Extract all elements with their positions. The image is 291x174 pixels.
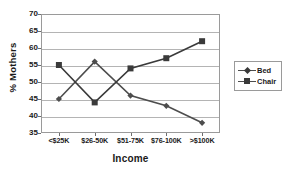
x-tick-label: >$100K: [190, 136, 215, 145]
y-tick-mark: [38, 82, 41, 83]
y-tick-label: 35: [18, 129, 38, 137]
y-tick-label: 70: [18, 10, 38, 18]
x-tick-mark: [202, 133, 203, 136]
y-tick-label: 45: [18, 95, 38, 103]
y-tick-mark: [38, 65, 41, 66]
legend-label-bed: Bed: [257, 66, 271, 75]
x-tick-label: $51-75K: [117, 136, 144, 145]
legend-label-chair: Chair: [257, 77, 276, 86]
x-tick-label: $26-50K: [81, 136, 108, 145]
y-axis-title: % Mothers: [7, 25, 18, 111]
x-tick-mark: [131, 133, 132, 136]
data-point-bed: [163, 103, 169, 109]
legend-marker-diamond-icon: [237, 65, 257, 76]
y-tick-mark: [38, 48, 41, 49]
line-chart: % Mothers 7065605550454035 <$25K$26-50K$…: [0, 0, 291, 174]
x-tick-mark: [59, 133, 60, 136]
chart-legend: Bed Chair: [234, 61, 282, 91]
x-tick-mark: [95, 133, 96, 136]
legend-item-chair: Chair: [237, 76, 279, 87]
series-layer: [41, 14, 220, 133]
y-tick-mark: [38, 116, 41, 117]
y-tick-label: 55: [18, 61, 38, 69]
data-point-bed: [199, 120, 205, 126]
y-tick-mark: [38, 133, 41, 134]
y-tick-mark: [38, 31, 41, 32]
y-tick-label: 50: [18, 78, 38, 86]
y-tick-label: 60: [18, 44, 38, 52]
y-tick-label: 65: [18, 27, 38, 35]
y-tick-mark: [38, 99, 41, 100]
data-point-chair: [56, 62, 62, 68]
y-tick-label: 40: [18, 112, 38, 120]
data-point-chair: [92, 99, 98, 105]
x-tick-label: <$25K: [48, 136, 69, 145]
data-point-chair: [199, 38, 205, 44]
y-tick-mark: [38, 14, 41, 15]
x-axis-title: Income: [38, 153, 223, 164]
legend-item-bed: Bed: [237, 65, 279, 76]
data-point-chair: [128, 65, 134, 71]
legend-marker-square-icon: [237, 76, 257, 87]
x-tick-label: $76-100K: [151, 136, 182, 145]
data-point-chair: [163, 55, 169, 61]
x-tick-mark: [166, 133, 167, 136]
